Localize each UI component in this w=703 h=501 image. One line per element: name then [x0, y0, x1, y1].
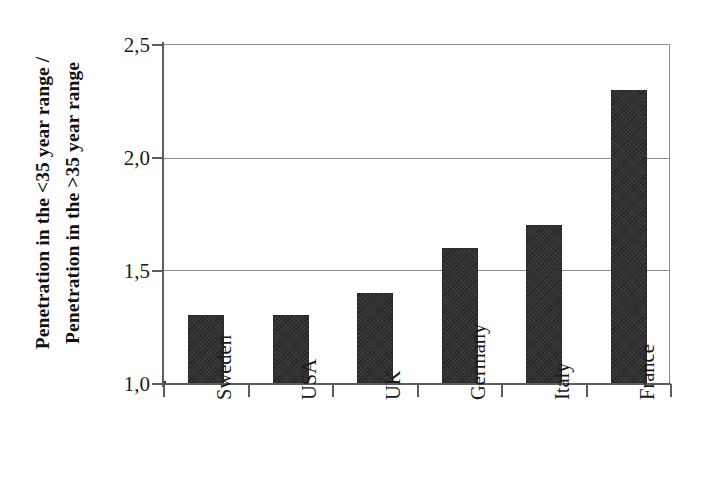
y-tick-label-2-0: 2,0 [90, 148, 150, 169]
x-axis-label-italy: Italy [551, 280, 573, 400]
x-axis-label-usa: USA [298, 280, 320, 400]
y-axis-title: Penetration in the <35 year range / Pene… [27, 3, 89, 403]
y-axis-tick-labels: 2,5 2,0 1,5 1,0 [88, 0, 150, 501]
x-tick-mark-3 [417, 384, 419, 397]
x-tick-mark-1 [248, 384, 250, 397]
x-tick-mark-0 [163, 384, 165, 397]
plot-area [163, 44, 670, 384]
x-tick-mark-4 [501, 384, 503, 397]
x-tick-mark-2 [332, 384, 334, 397]
y-tick-label-1-5: 1,5 [90, 261, 150, 282]
gridline-2-0 [164, 158, 669, 159]
x-tick-mark-5 [586, 384, 588, 397]
bar-chart: Penetration in the <35 year range / Pene… [0, 0, 703, 501]
y-axis-title-line-2: Penetration in the >35 year range [58, 62, 88, 344]
x-axis-label-sweden: Sweden [213, 280, 235, 400]
y-tick-label-1-0: 1,0 [90, 374, 150, 395]
x-axis-label-germany: Germany [467, 280, 489, 400]
x-axis-label-france: France [636, 280, 658, 400]
y-axis-spine [162, 42, 164, 387]
gridline-1-5 [164, 270, 669, 271]
x-tick-mark-6 [670, 384, 672, 397]
x-axis-label-uk: UK [382, 280, 404, 400]
y-tick-label-2-5: 2,5 [90, 35, 150, 56]
y-axis-title-line-1: Penetration in the <35 year range / [28, 57, 58, 350]
